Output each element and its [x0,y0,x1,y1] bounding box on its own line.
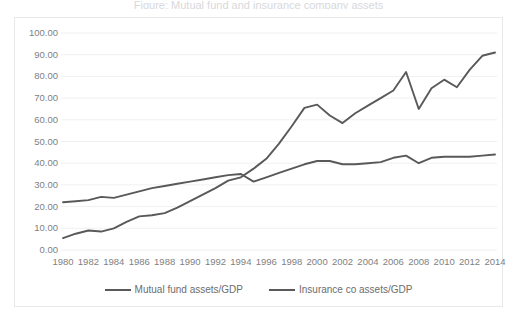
legend-line-swatch-icon [105,289,131,291]
y-axis-tick-label: 0.00 [12,245,58,255]
x-axis-tick-label: 1992 [205,256,226,268]
x-axis-tick-label: 1990 [179,256,200,268]
legend-label: Insurance co assets/GDP [299,284,412,296]
y-axis-tick-label: 20.00 [12,202,58,212]
y-axis-tick-label: 50.00 [12,137,58,147]
x-axis-tick-label: 1984 [103,256,124,268]
series-line-2 [63,155,495,203]
x-axis-tick-label: 1986 [129,256,150,268]
y-axis-tick-label: 70.00 [12,93,58,103]
y-axis: 100.0090.0080.0070.0060.0050.0040.0030.0… [12,0,58,321]
x-axis-tick-label: 2010 [434,256,455,268]
line-chart-plot [0,0,517,321]
y-axis-tick-label: 10.00 [12,223,58,233]
x-axis-tick-label: 2000 [307,256,328,268]
legend-label: Mutual fund assets/GDP [135,284,243,296]
x-axis-tick-label: 2002 [332,256,353,268]
chart-container: Figure: Mutual fund and insurance compan… [0,0,517,321]
x-axis-tick-label: 2008 [408,256,429,268]
x-axis-tick-label: 1980 [52,256,73,268]
y-axis-tick-label: 40.00 [12,158,58,168]
x-axis-tick-label: 1994 [230,256,251,268]
legend-item-1[interactable]: Mutual fund assets/GDP [105,284,243,296]
series-line-1 [63,53,495,239]
x-axis-tick-label: 2014 [484,256,505,268]
chart-legend: Mutual fund assets/GDPInsurance co asset… [0,281,517,299]
x-axis-tick-label: 2012 [459,256,480,268]
y-axis-tick-label: 60.00 [12,115,58,125]
y-axis-tick-label: 30.00 [12,180,58,190]
x-axis-tick-label: 1982 [78,256,99,268]
legend-item-2[interactable]: Insurance co assets/GDP [269,284,412,296]
y-axis-tick-label: 100.00 [12,28,58,38]
x-axis-tick-label: 2006 [383,256,404,268]
y-axis-tick-label: 80.00 [12,71,58,81]
series-lines [63,53,495,239]
gridlines [61,33,497,250]
x-axis-tick-label: 1988 [154,256,175,268]
x-axis: 1980198219841986198819901992199419961998… [0,256,517,270]
x-axis-tick-label: 1998 [281,256,302,268]
x-axis-tick-label: 2004 [357,256,378,268]
legend-line-swatch-icon [269,289,295,291]
y-axis-tick-label: 90.00 [12,50,58,60]
x-axis-tick-label: 1996 [256,256,277,268]
